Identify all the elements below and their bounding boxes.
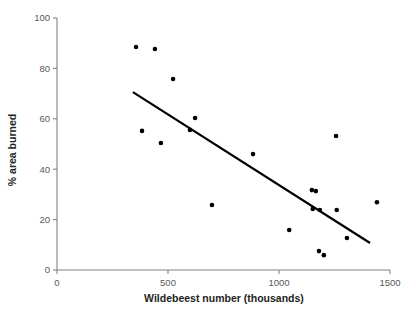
y-tick-label: 100 xyxy=(34,12,50,23)
chart-figure: 020406080100 050010001500 Wildebeest num… xyxy=(0,0,416,316)
y-tick-label: 20 xyxy=(39,214,50,225)
data-point xyxy=(140,129,145,134)
scatter-plot: 020406080100 050010001500 Wildebeest num… xyxy=(0,0,416,316)
data-point xyxy=(159,141,164,146)
data-point xyxy=(310,207,315,212)
data-point xyxy=(188,128,193,133)
x-axis-label: Wildebeest number (thousands) xyxy=(144,292,304,304)
x-tick-label: 0 xyxy=(54,277,59,288)
data-point xyxy=(153,47,158,52)
data-point xyxy=(251,152,256,157)
y-tick-label: 0 xyxy=(45,264,50,275)
y-tick-label: 40 xyxy=(39,164,50,175)
data-point xyxy=(134,45,139,50)
y-tick-label: 80 xyxy=(39,63,50,74)
x-tick-label: 1500 xyxy=(379,277,400,288)
x-tick-label: 1000 xyxy=(268,277,289,288)
data-point xyxy=(318,208,323,213)
data-point xyxy=(334,208,339,213)
data-point xyxy=(375,200,380,205)
data-point xyxy=(317,249,322,254)
data-point xyxy=(322,253,327,258)
data-point xyxy=(314,189,319,194)
data-point xyxy=(345,236,350,241)
y-axis-label: % area burned xyxy=(6,114,18,186)
data-point xyxy=(310,188,315,193)
data-point xyxy=(210,203,215,208)
y-tick-label: 60 xyxy=(39,113,50,124)
data-point xyxy=(171,77,176,82)
data-point xyxy=(334,134,339,139)
plot-background xyxy=(0,0,416,316)
data-point xyxy=(193,116,198,121)
data-point xyxy=(287,228,292,233)
x-tick-label: 500 xyxy=(160,277,176,288)
